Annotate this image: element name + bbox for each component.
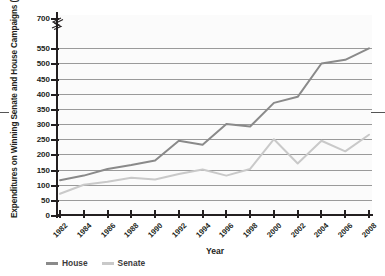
y-axis-tick xyxy=(51,139,59,141)
y-axis-tick xyxy=(51,63,59,65)
legend-swatch-senate-icon xyxy=(102,262,114,265)
y-axis-tick-label: 500 xyxy=(22,59,50,68)
x-axis-tick-label: 2002 xyxy=(289,221,307,239)
x-axis-title: Year xyxy=(57,246,373,256)
y-axis-tick-label: 350 xyxy=(22,104,50,113)
y-axis-tick xyxy=(51,94,59,96)
y-axis-tick-label: 250 xyxy=(22,135,50,144)
x-axis-tick xyxy=(107,210,109,218)
x-axis-tick-label: 1982 xyxy=(51,221,69,239)
x-axis-tick-label: 1986 xyxy=(99,221,117,239)
x-axis-tick xyxy=(297,210,299,218)
y-axis-tick-label: 150 xyxy=(22,165,50,174)
x-axis-tick xyxy=(202,210,204,218)
legend-label-house: House xyxy=(62,258,88,268)
stray-mark-left xyxy=(0,112,9,113)
axis-break-icon xyxy=(50,16,66,30)
x-axis-tick-label: 1998 xyxy=(241,221,259,239)
series-lines xyxy=(57,15,372,215)
legend-item-house: House xyxy=(46,258,88,268)
y-axis-tick-label: 700 xyxy=(22,14,50,23)
y-axis-tick xyxy=(51,200,59,202)
x-axis-tick-label: 1984 xyxy=(75,221,93,239)
y-axis-tick-label: 50 xyxy=(22,195,50,204)
chart-figure: Expenditures on Winning Senate and House… xyxy=(0,0,385,276)
y-axis-tick xyxy=(51,154,59,156)
chart-legend: House Senate xyxy=(46,258,145,268)
y-axis-tick xyxy=(51,48,59,50)
x-axis-tick xyxy=(320,210,322,218)
x-axis-tick xyxy=(178,210,180,218)
y-axis-tick-label: 0 xyxy=(22,211,50,220)
y-axis-tick xyxy=(51,185,59,187)
x-axis-tick xyxy=(225,210,227,218)
x-axis-tick-label: 1990 xyxy=(146,221,164,239)
x-axis-tick-label: 2008 xyxy=(360,221,378,239)
y-axis-tick xyxy=(51,170,59,172)
y-axis-tick-label: 300 xyxy=(22,120,50,129)
x-axis-tick-label: 1996 xyxy=(217,221,235,239)
legend-item-senate: Senate xyxy=(102,258,145,268)
x-axis-tick-label: 2004 xyxy=(312,221,330,239)
x-axis-tick xyxy=(344,210,346,218)
x-axis-tick-label: 2006 xyxy=(336,221,354,239)
stray-mark-right xyxy=(371,112,385,113)
y-axis-tick xyxy=(51,124,59,126)
y-axis-tick xyxy=(51,79,59,81)
x-axis-tick xyxy=(249,210,251,218)
y-axis-line xyxy=(56,12,58,218)
legend-swatch-house-icon xyxy=(46,262,58,265)
series-line-house xyxy=(60,48,369,180)
y-axis-tick xyxy=(51,215,59,217)
x-axis-line xyxy=(57,214,373,216)
legend-label-senate: Senate xyxy=(118,258,145,268)
y-axis-tick-label: 400 xyxy=(22,89,50,98)
x-axis-tick xyxy=(59,210,61,218)
plot-area xyxy=(57,15,372,215)
x-axis-tick xyxy=(368,210,370,218)
x-axis-tick xyxy=(83,210,85,218)
y-axis-title: Expenditures on Winning Senate and House… xyxy=(10,8,20,218)
x-axis-tick xyxy=(154,210,156,218)
y-axis-tick xyxy=(51,109,59,111)
y-axis-tick-label: 450 xyxy=(22,74,50,83)
x-axis-tick-label: 2000 xyxy=(265,221,283,239)
series-line-senate xyxy=(60,135,369,194)
y-axis-tick-label: 200 xyxy=(22,150,50,159)
y-axis-tick-label: 550 xyxy=(22,44,50,53)
x-axis-tick xyxy=(273,210,275,218)
y-axis-tick-label: 100 xyxy=(22,180,50,189)
x-axis-tick-label: 1994 xyxy=(194,221,212,239)
x-axis-tick xyxy=(130,210,132,218)
x-axis-tick-label: 1988 xyxy=(122,221,140,239)
x-axis-tick-label: 1992 xyxy=(170,221,188,239)
